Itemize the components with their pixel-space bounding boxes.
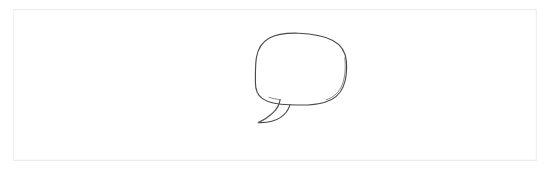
drawing-canvas: A simple hand-drawn speech bubble outlin… [0,0,553,172]
speech-bubble-icon [0,0,553,172]
sketch-drawing-layer [0,0,553,172]
speech-bubble-body-echo-path [326,58,345,100]
speech-bubble-body-path [255,33,346,105]
speech-bubble-tail-notch-path [269,97,280,99]
